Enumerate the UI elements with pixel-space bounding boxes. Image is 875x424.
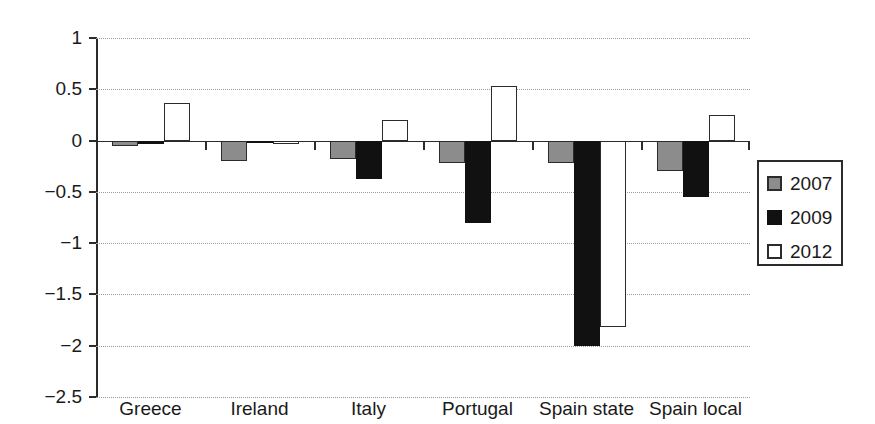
- bar-spain-local-2007: [657, 141, 683, 172]
- y-tick-label: 1: [71, 28, 82, 47]
- black-filled-square-icon: [767, 210, 782, 225]
- bar-spain-state-2009: [574, 141, 600, 346]
- x-tick-label: Spain state: [532, 398, 641, 420]
- y-tick-label: −2: [60, 336, 82, 355]
- bar-greece-2012: [164, 103, 190, 141]
- x-tick-label: Portugal: [423, 398, 532, 420]
- bar-portugal-2009: [465, 141, 491, 223]
- legend-label: 2007: [790, 174, 832, 193]
- bar-greece-2009: [138, 141, 164, 144]
- bar-spain-state-2007: [548, 141, 574, 164]
- y-tick-label: −0.5: [44, 182, 82, 201]
- white-open-square-icon: [767, 244, 782, 259]
- bar-italy-2012: [382, 120, 408, 141]
- y-tick-label: −1.5: [44, 284, 82, 303]
- bar-italy-2009: [356, 141, 382, 179]
- bar-group: [205, 38, 314, 397]
- bar-greece-2007: [112, 141, 138, 146]
- legend-label: 2009: [790, 208, 832, 227]
- bar-ireland-2007: [221, 141, 247, 162]
- bar-ireland-2009: [247, 141, 273, 143]
- bar-portugal-2012: [491, 86, 517, 140]
- legend-entry-2009[interactable]: 2009: [767, 207, 832, 227]
- x-tick-mark: [314, 141, 316, 150]
- y-tick-label: −1: [60, 233, 82, 252]
- x-tick-label: Spain local: [641, 398, 750, 420]
- bar-spain-state-2012: [600, 141, 626, 328]
- y-tick-label: 0.5: [56, 79, 82, 98]
- bar-group: [641, 38, 750, 397]
- x-tick-mark: [96, 141, 98, 150]
- bar-italy-2007: [330, 141, 356, 159]
- gray-filled-square-icon: [767, 176, 782, 191]
- bar-group: [314, 38, 423, 397]
- plot-area: GreeceIrelandItalyPortugalSpain stateSpa…: [96, 38, 750, 397]
- x-tick-label: Ireland: [205, 398, 314, 420]
- bar-ireland-2012: [273, 141, 299, 144]
- legend: 200720092012: [757, 160, 843, 266]
- x-tick-mark: [748, 141, 750, 150]
- bar-portugal-2007: [439, 141, 465, 164]
- x-tick-label: Greece: [96, 398, 205, 420]
- y-tick-label: −2.5: [44, 387, 82, 406]
- bar-group: [532, 38, 641, 397]
- x-tick-mark: [205, 141, 207, 150]
- x-tick-mark: [641, 141, 643, 150]
- legend-entry-2007[interactable]: 2007: [767, 173, 832, 193]
- bar-spain-local-2009: [683, 141, 709, 197]
- x-tick-label: Italy: [314, 398, 423, 420]
- legend-label: 2012: [790, 242, 832, 261]
- bar-chart: 10.50−0.5−1−1.5−2−2.5 GreeceIrelandItaly…: [0, 0, 875, 424]
- bar-group: [423, 38, 532, 397]
- y-tick-label: 0: [71, 131, 82, 150]
- bar-spain-local-2012: [709, 115, 735, 141]
- x-tick-mark: [423, 141, 425, 150]
- bar-group: [96, 38, 205, 397]
- legend-entry-2012[interactable]: 2012: [767, 241, 832, 261]
- x-tick-mark: [532, 141, 534, 150]
